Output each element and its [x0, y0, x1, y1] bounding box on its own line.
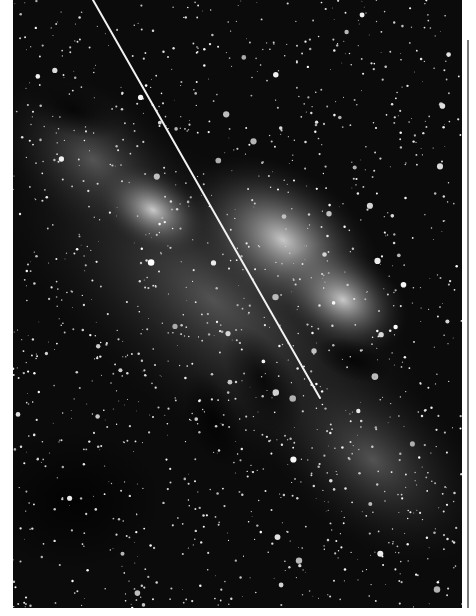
star [228, 268, 230, 270]
star [286, 44, 287, 45]
star [158, 106, 160, 108]
star [188, 474, 189, 475]
star [241, 348, 243, 350]
star [426, 490, 428, 492]
star [409, 42, 411, 44]
star [421, 307, 422, 308]
star [186, 130, 188, 132]
star [180, 85, 181, 86]
star [448, 92, 450, 94]
star [162, 502, 164, 504]
star [52, 224, 54, 226]
star [48, 298, 50, 300]
star [342, 359, 343, 360]
star [379, 157, 381, 159]
star [315, 92, 316, 93]
star [350, 251, 351, 252]
star [321, 2, 323, 4]
star [454, 289, 456, 291]
star [425, 477, 427, 479]
star [67, 496, 72, 501]
star [228, 399, 229, 400]
star [128, 581, 129, 582]
star [334, 448, 335, 449]
star [36, 74, 41, 79]
star [216, 492, 219, 495]
star [260, 64, 262, 66]
star [125, 593, 126, 594]
star [323, 455, 325, 457]
star [159, 232, 160, 233]
star [48, 262, 49, 263]
star [446, 504, 448, 506]
star [391, 471, 393, 473]
star [13, 175, 14, 176]
star [370, 584, 371, 585]
star [164, 415, 165, 416]
star [435, 383, 436, 384]
star [360, 402, 361, 403]
star [293, 442, 295, 444]
star [180, 128, 181, 129]
star [44, 189, 46, 191]
star [140, 5, 142, 7]
star [458, 75, 460, 77]
star [452, 540, 454, 542]
star [300, 116, 302, 118]
star [107, 313, 109, 315]
star [404, 356, 407, 359]
star [171, 69, 172, 70]
star [104, 466, 105, 467]
star [277, 188, 279, 190]
star [446, 487, 447, 488]
star [127, 355, 128, 356]
star [189, 505, 191, 507]
star [373, 170, 375, 172]
star [444, 146, 445, 147]
star [152, 348, 153, 349]
star [303, 103, 305, 105]
star [442, 493, 444, 495]
star [144, 279, 145, 280]
star [188, 547, 189, 548]
star [346, 366, 348, 368]
star [404, 426, 405, 427]
star [353, 165, 357, 169]
star [56, 281, 58, 283]
star [27, 370, 29, 372]
star [270, 509, 272, 511]
star [197, 48, 198, 49]
star [30, 261, 31, 262]
star [353, 298, 355, 300]
star [81, 245, 82, 246]
star [349, 413, 350, 414]
star [172, 332, 173, 333]
star [422, 132, 424, 134]
star [93, 496, 94, 497]
star [27, 393, 28, 394]
star [124, 404, 125, 405]
star [249, 41, 251, 43]
star [435, 429, 437, 431]
star [115, 166, 116, 167]
star [136, 145, 138, 147]
star [279, 583, 284, 588]
star [51, 27, 52, 28]
star [79, 165, 80, 166]
star [427, 20, 429, 22]
star [443, 69, 445, 71]
star [278, 345, 280, 347]
star [351, 501, 353, 503]
star [207, 569, 209, 571]
star [30, 270, 32, 272]
star [393, 292, 395, 294]
star [303, 395, 304, 396]
star [326, 511, 327, 512]
star [427, 14, 429, 16]
star [19, 13, 22, 16]
star [416, 510, 417, 511]
star [371, 445, 374, 448]
star [25, 491, 27, 493]
star [341, 511, 342, 512]
star [26, 270, 28, 272]
